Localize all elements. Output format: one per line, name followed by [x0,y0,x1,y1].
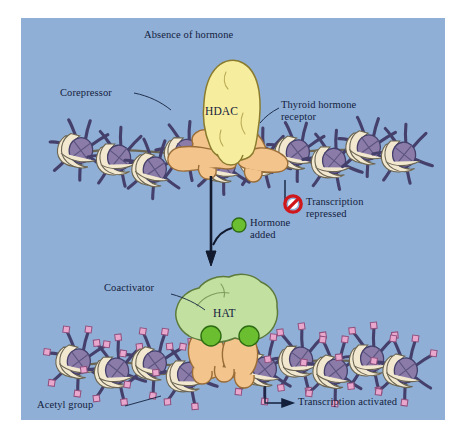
label-corepressor: Corepressor [60,87,112,99]
status-transcription-activated: Transcription activated [298,396,397,408]
label-receptor-line1: Thyroid hormone [281,99,356,110]
leader-corepressor [134,93,171,110]
hormone-bound-left [201,326,221,346]
figure-canvas: Absence of hormone Corepressor HDAC Thyr… [0,0,466,435]
label-acetyl-group: Acetyl group [37,399,93,411]
label-receptor-line2: receptor [281,111,316,122]
hormone-marker [232,218,246,232]
repressed-line1: Transcription [306,196,364,207]
hormone-line1: Hormone [250,217,290,228]
hormone-line2: added [250,229,276,240]
label-coactivator: Coactivator [104,282,154,294]
leader-acetyl [125,396,161,406]
panel-top-heading: Absence of hormone [144,29,233,41]
transition-arrow [206,176,216,266]
label-hormone-added: Hormone added [250,217,330,241]
label-hat: HAT [213,307,236,319]
diagram-panel: Absence of hormone Corepressor HDAC Thyr… [21,18,445,420]
leader-receptor [260,108,279,123]
label-thyroid-hormone-receptor: Thyroid hormone receptor [281,99,373,123]
hormone-curved-arrow [213,228,232,245]
prohibition-icon [285,180,301,212]
label-hdac: HDAC [205,105,238,117]
hormone-bound-right [239,326,259,346]
